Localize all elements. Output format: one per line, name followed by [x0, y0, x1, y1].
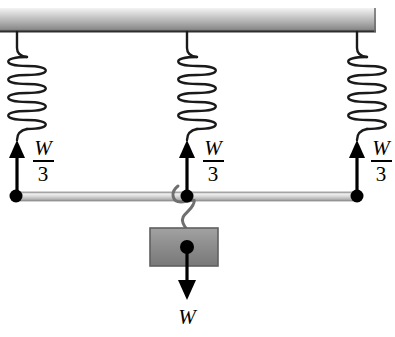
spring-right [348, 32, 386, 140]
spring-middle-coils [178, 57, 216, 129]
weight-label: W [178, 305, 198, 329]
force-label-right: W 3 [371, 136, 392, 186]
tension-arrow-left [9, 140, 25, 196]
force-label-middle-numerator: W [204, 136, 224, 160]
force-label-left-denominator: 3 [38, 162, 49, 186]
joint-dot-right [351, 190, 364, 203]
force-label-middle: W 3 [203, 136, 224, 186]
joint-dot-left [10, 190, 23, 203]
force-label-left-numerator: W [34, 136, 54, 160]
weight-arrow [178, 240, 196, 300]
spring-left [8, 32, 46, 140]
force-label-right-denominator: 3 [376, 162, 387, 186]
spring-middle-top-wire [187, 32, 197, 57]
spring-right-top-wire [357, 32, 367, 57]
ceiling-group [0, 8, 376, 32]
spring-left-coils [8, 57, 46, 129]
tension-arrow-middle-head [179, 140, 195, 158]
tension-arrow-middle [179, 140, 195, 196]
force-label-middle-denominator: 3 [208, 162, 219, 186]
joint-dot-middle [181, 190, 194, 203]
spring-middle-bottom-wire [187, 129, 197, 140]
physics-diagram: W 3 W 3 W 3 [0, 0, 395, 337]
tension-arrow-right [349, 140, 365, 196]
tension-arrow-right-head [349, 140, 365, 158]
diagram-canvas: W 3 W 3 W 3 [0, 0, 395, 337]
weight-arrow-head [178, 280, 196, 300]
spring-left-bottom-wire [17, 129, 27, 140]
spring-left-top-wire [17, 32, 27, 57]
force-label-right-numerator: W [372, 136, 392, 160]
spring-middle [178, 32, 216, 140]
spring-right-bottom-wire [357, 129, 367, 140]
tension-arrow-left-head [9, 140, 25, 158]
spring-right-coils [348, 57, 386, 129]
force-label-left: W 3 [33, 136, 54, 186]
ceiling-bar [0, 8, 376, 32]
